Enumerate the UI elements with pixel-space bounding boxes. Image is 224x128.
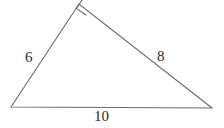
side-label-leg-a: 6 <box>25 50 33 65</box>
triangle-outline <box>11 4 212 108</box>
triangle-figure <box>0 0 224 128</box>
side-label-hypotenuse: 10 <box>94 109 109 124</box>
right-angle-marker-icon <box>76 0 86 15</box>
geometry-diagram: 6 8 10 <box>0 0 224 128</box>
side-label-leg-b: 8 <box>157 49 165 64</box>
